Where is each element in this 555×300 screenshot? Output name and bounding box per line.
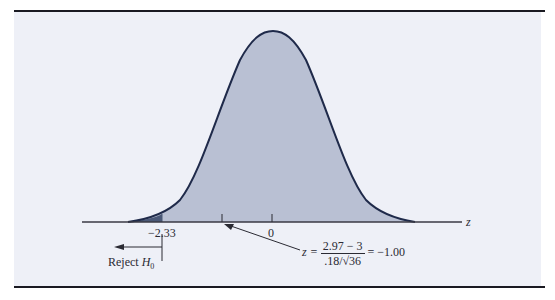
formula-denominator: .18/√36 [321, 254, 365, 267]
reject-label: Reject H0 [108, 256, 154, 271]
pointer-arrow-head [224, 224, 234, 230]
formula-fraction: 2.97 − 3 .18/√36 [321, 240, 365, 267]
curve-fill [128, 31, 415, 222]
pointer-arrow-shaft [228, 225, 300, 250]
test-statistic-formula: z = 2.97 − 3 .18/√36 = −1.00 [302, 240, 405, 267]
formula-result: = −1.00 [368, 245, 406, 259]
reject-arrow-head [114, 244, 124, 250]
reject-text: Reject [108, 255, 139, 269]
tick-label-zero: 0 [268, 227, 274, 239]
reject-subscript: 0 [150, 262, 154, 271]
axis-label-z: z [466, 216, 471, 228]
formula-numerator: 2.97 − 3 [321, 240, 365, 254]
tick-label-critical: −2.33 [148, 227, 176, 239]
normal-curve-plot [0, 0, 555, 300]
formula-lhs: z = [302, 245, 318, 259]
